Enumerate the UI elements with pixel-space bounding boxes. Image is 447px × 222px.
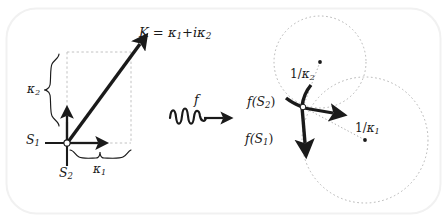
f-s2-prefix: f(S (247, 94, 265, 109)
brace-kappa1-symbol: κ (93, 162, 101, 176)
label-brace-kappa2: κ2 (27, 83, 40, 96)
one-over-prefix-1: 1/ (355, 121, 367, 135)
brace-kappa2-symbol: κ (27, 82, 35, 96)
figure-vector-graphics (0, 0, 447, 222)
s2-symbol: S (59, 165, 68, 180)
centre-dot-kappa2 (318, 60, 322, 64)
figure-canvas: K = κ1+iκ2 S1 S2 κ1 κ2 f 1/κ2 1/κ1 f(S2)… (0, 0, 447, 222)
kappa2-symbol: κ (197, 25, 206, 40)
label-radius-kappa1: 1/κ1 (355, 122, 380, 135)
brace-kappa2-subscript: 2 (35, 87, 40, 97)
plus-i: +i (182, 25, 197, 40)
radius2-subscript: 2 (310, 72, 315, 82)
image-tangent-arrow-down (302, 107, 305, 143)
image-tangent-arrows (286, 85, 333, 143)
image-curve-s2 (302, 85, 311, 106)
f-s1-prefix: f(S (245, 131, 263, 146)
f-s1-close-paren: ) (269, 131, 274, 146)
map-label-f: f (194, 93, 199, 106)
image-curve-s2-left (286, 98, 302, 107)
s2-subscript: 2 (68, 171, 73, 181)
curvature-vector-label: K = κ1+iκ2 (139, 26, 211, 41)
label-radius-kappa2: 1/κ2 (290, 68, 315, 81)
label-f-s1: f(S1) (245, 133, 273, 147)
label-brace-kappa1: κ1 (93, 163, 106, 176)
s1-subscript: 1 (35, 138, 40, 148)
curvature-vector-arrow (68, 44, 140, 142)
script-k-symbol: K (139, 25, 149, 40)
image-base-point (300, 104, 306, 110)
label-s2: S2 (59, 167, 73, 181)
kappa2-subscript: 2 (206, 31, 212, 41)
s1-symbol: S (26, 132, 35, 147)
radius1-subscript: 1 (375, 126, 380, 136)
map-squiggle-arrow (170, 109, 223, 124)
image-tangent-arrow-right (304, 108, 333, 113)
f-s2-close-paren: ) (271, 94, 276, 109)
centre-dot-kappa1 (363, 138, 367, 142)
brace-kappa2 (44, 54, 59, 126)
label-s1: S1 (26, 134, 40, 148)
brace-kappa1-subscript: 1 (101, 167, 106, 177)
radius2-kappa-symbol: κ (302, 67, 310, 81)
figure-frame (7, 9, 441, 214)
equals-sign: = (149, 25, 168, 40)
origin-point (64, 140, 70, 146)
one-over-prefix-2: 1/ (290, 67, 302, 81)
brace-kappa1 (70, 150, 131, 158)
radius1-kappa-symbol: κ (367, 121, 375, 135)
label-f-s2: f(S2) (247, 96, 275, 110)
